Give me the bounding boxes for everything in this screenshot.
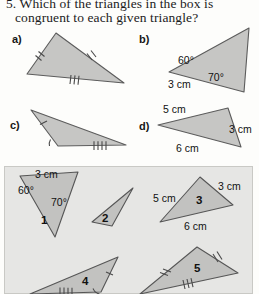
- answer-choices-box: [4, 166, 253, 294]
- worksheet-page: 5. Which of the triangles in the box is …: [0, 0, 259, 294]
- triangle-4-number: 4: [82, 275, 88, 287]
- triangle-1-angle-left: 60°: [18, 184, 34, 196]
- triangle-b-angle-right: 70°: [208, 71, 224, 83]
- triangle-d-side-top: 5 cm: [163, 103, 186, 115]
- triangle-1-angle-right: 70°: [51, 196, 67, 208]
- triangle-3-side-bottom: 6 cm: [184, 220, 207, 232]
- triangle-a-shape: [27, 33, 124, 85]
- triangle-d-side-right: 3 cm: [229, 123, 252, 135]
- triangle-3-number: 3: [196, 194, 202, 206]
- triangle-5-number: 5: [194, 262, 200, 274]
- triangle-1-number: 1: [41, 214, 47, 226]
- triangle-1-side-top: 3 cm: [35, 168, 58, 180]
- triangle-2-number: 2: [102, 212, 108, 224]
- triangle-b-angle-left: 60°: [178, 54, 194, 66]
- question-line-2: congruent to each given triangle?: [15, 11, 198, 25]
- part-label-a: a): [12, 33, 22, 45]
- triangle-d-side-bottom: 6 cm: [176, 142, 199, 154]
- part-label-c: c): [10, 119, 20, 131]
- part-label-d: d): [139, 120, 149, 132]
- triangle-b-side-bottom: 3 cm: [168, 78, 191, 90]
- triangle-3-side-left: 5 cm: [153, 192, 176, 204]
- part-label-b: b): [139, 33, 149, 45]
- triangle-c-shape: [31, 110, 126, 150]
- triangle-3-side-right: 3 cm: [218, 180, 241, 192]
